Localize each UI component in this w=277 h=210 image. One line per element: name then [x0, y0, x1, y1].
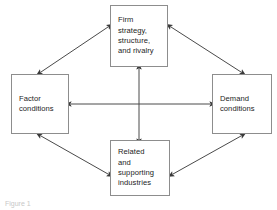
- node-firm-strategy: Firm strategy, structure, and rivalry: [110, 5, 168, 67]
- figure-caption: Figure 1: [5, 200, 31, 207]
- node-demand-conditions-line-1: Demand: [220, 94, 249, 104]
- node-related-industries-line-3: supporting: [118, 168, 154, 178]
- porter-diamond-diagram: Firm strategy, structure, and rivalry Fa…: [0, 0, 277, 210]
- node-firm-strategy-line-1: Firm: [118, 15, 133, 25]
- node-demand-conditions-line-2: conditions: [220, 104, 255, 114]
- node-related-industries-line-2: and: [118, 158, 131, 168]
- node-demand-conditions: Demand conditions: [212, 74, 272, 134]
- node-firm-strategy-line-4: and rivalry: [118, 46, 154, 56]
- node-related-industries-line-4: industries: [118, 178, 151, 188]
- node-firm-strategy-line-2: strategy,: [118, 26, 147, 36]
- node-factor-conditions-line-2: conditions: [19, 104, 54, 114]
- node-related-industries: Related and supporting industries: [110, 140, 170, 196]
- node-factor-conditions-line-1: Factor: [19, 94, 41, 104]
- node-factor-conditions: Factor conditions: [11, 74, 69, 134]
- connector-bottom-left-diagonal: [41, 136, 108, 174]
- connector-top-left-diagonal: [41, 27, 108, 72]
- node-firm-strategy-line-3: structure,: [118, 36, 150, 46]
- node-related-industries-line-1: Related: [118, 147, 145, 157]
- connector-bottom-right-diagonal: [173, 136, 241, 174]
- connector-top-right-diagonal: [171, 27, 241, 72]
